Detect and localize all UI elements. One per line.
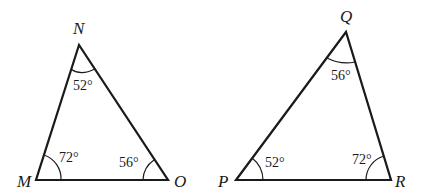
angle-label-o: 56° <box>119 155 139 170</box>
diagram-canvas: N M O 52° 72° 56° Q P R 56° 52° 72° <box>0 0 425 196</box>
angle-arc-p <box>252 158 263 180</box>
angle-label-r: 72° <box>352 152 372 167</box>
triangle-mno-outline <box>36 45 168 180</box>
angle-arc-o <box>143 160 154 180</box>
angle-label-m: 72° <box>59 150 79 165</box>
triangle-pqr: Q P R 56° 52° 72° <box>217 7 406 191</box>
angle-arc-n <box>72 69 96 73</box>
angle-label-q: 56° <box>331 68 351 83</box>
vertex-label-m: M <box>16 172 32 191</box>
vertex-label-o: O <box>174 172 186 191</box>
vertex-label-n: N <box>72 19 86 38</box>
vertex-label-q: Q <box>340 7 352 26</box>
triangle-mno: N M O 52° 72° 56° <box>16 19 186 191</box>
vertex-label-r: R <box>394 172 406 191</box>
angle-label-n: 52° <box>73 78 93 93</box>
vertex-label-p: P <box>217 172 228 191</box>
angle-label-p: 52° <box>265 155 285 170</box>
angle-arc-q <box>327 58 355 63</box>
